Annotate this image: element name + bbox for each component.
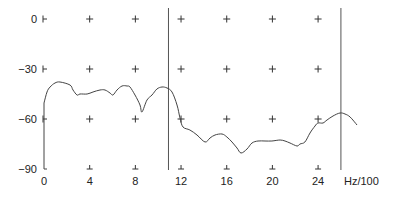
grid-plus-marker [269, 116, 276, 123]
grid-plus-marker [86, 66, 93, 73]
y-tick-label: −30 [18, 63, 37, 75]
grid-plus-marker [223, 66, 230, 73]
grid-plus-marker [86, 116, 93, 123]
x-axis-tick [224, 165, 230, 169]
grid-plus-marker [132, 66, 139, 73]
x-axis-labels: 0 4 8 12 16 20 24 Hz/100 [41, 175, 379, 187]
y-tick-label: −90 [18, 163, 37, 175]
grid-markers [43, 16, 322, 170]
spectrum-chart: 0 −30 −60 −90 0 4 8 12 16 20 24 Hz/100 [0, 0, 396, 198]
x-axis-unit-label: Hz/100 [344, 175, 379, 187]
x-tick-label: 12 [175, 175, 187, 187]
x-tick-label: 0 [41, 175, 47, 187]
y-axis-tick [43, 16, 47, 23]
x-tick-label: 20 [266, 175, 278, 187]
grid-plus-marker [315, 16, 322, 23]
frequency-cursors [168, 8, 340, 170]
x-tick-label: 8 [132, 175, 138, 187]
grid-plus-marker [178, 16, 185, 23]
grid-plus-marker [269, 66, 276, 73]
y-axis-tick [43, 66, 47, 73]
y-tick-label: 0 [31, 13, 37, 25]
x-tick-label: 16 [221, 175, 233, 187]
x-axis-tick [87, 165, 93, 169]
x-axis-tick [132, 165, 138, 169]
grid-plus-marker [223, 16, 230, 23]
x-tick-label: 24 [312, 175, 324, 187]
grid-plus-marker [132, 16, 139, 23]
spectrum-curve [44, 82, 357, 169]
grid-plus-marker [269, 16, 276, 23]
grid-plus-marker [223, 116, 230, 123]
x-axis-tick [269, 165, 275, 169]
y-axis-labels: 0 −30 −60 −90 [18, 13, 37, 175]
x-axis-tick [315, 165, 321, 169]
x-tick-label: 4 [87, 175, 93, 187]
grid-plus-marker [315, 116, 322, 123]
grid-plus-marker [86, 16, 93, 23]
spectrum-line [44, 82, 357, 169]
x-axis-tick [178, 165, 184, 169]
grid-plus-marker [315, 66, 322, 73]
grid-plus-marker [178, 66, 185, 73]
grid-plus-marker [132, 116, 139, 123]
y-tick-label: −60 [18, 113, 37, 125]
